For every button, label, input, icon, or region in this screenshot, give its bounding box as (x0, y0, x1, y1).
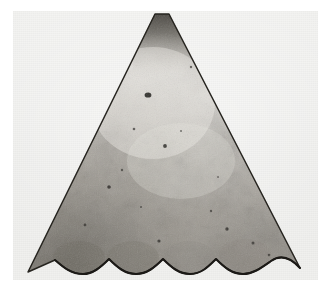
plaque-body (13, 11, 318, 280)
photograph-plate (13, 11, 318, 280)
artifact-illustration (13, 11, 318, 280)
figure-root: triangular hammered metal plaque with sc… (0, 0, 335, 298)
plaque-film-grain (13, 11, 318, 280)
